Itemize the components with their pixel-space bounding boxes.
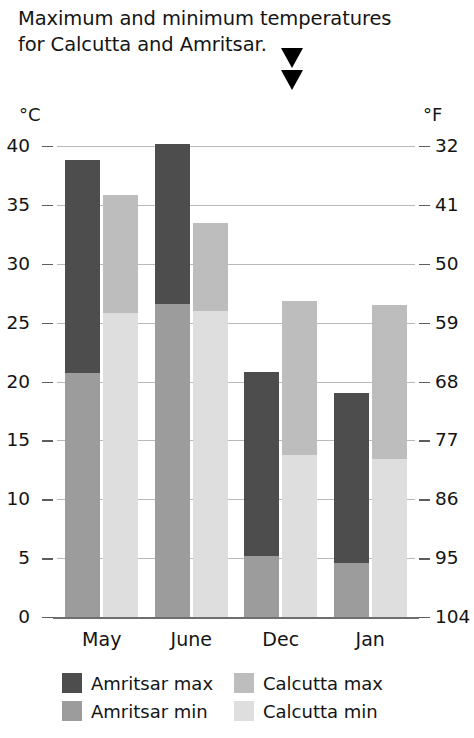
y-axis-tick-left (42, 499, 53, 500)
y-axis-tick-right (419, 558, 430, 559)
bar-calcutta-min-may (103, 313, 138, 617)
bar-calcutta-min-jan (372, 459, 407, 617)
y-axis-label-celsius: 10 (0, 490, 30, 509)
down-triangle-icon-upper (281, 48, 303, 68)
y-axis-label-fahrenheit: 32 (435, 137, 474, 156)
y-axis-label-celsius: 40 (0, 137, 30, 156)
y-axis-label-fahrenheit: 50 (435, 255, 474, 274)
legend-swatch-icon (234, 701, 254, 721)
legend-label: Calcutta max (263, 673, 383, 694)
down-triangle-icon-lower (281, 70, 303, 90)
y-axis-tick-left (42, 440, 53, 441)
y-axis-label-celsius: 25 (0, 314, 30, 333)
right-axis-unit: °F (423, 104, 442, 125)
chart-title: Maximum and minimum temperatures for Cal… (18, 6, 448, 58)
x-axis-label-jan: Jan (326, 628, 416, 650)
legend-label: Amritsar min (91, 701, 208, 722)
y-axis-tick-right (419, 205, 430, 206)
y-axis-tick-left (42, 146, 53, 147)
y-axis-label-fahrenheit: 59 (435, 314, 474, 333)
title-line-2: for Calcutta and Amritsar. (18, 32, 448, 58)
y-axis-label-fahrenheit: 86 (435, 490, 474, 509)
bar-calcutta-min-june (193, 311, 228, 617)
legend-swatch-icon (62, 673, 82, 693)
y-axis-label-celsius: 35 (0, 196, 30, 215)
y-axis-tick-left (42, 382, 53, 383)
x-axis-baseline (53, 617, 419, 619)
y-axis-label-celsius: 5 (0, 549, 30, 568)
legend-swatch-icon (234, 673, 254, 693)
bar-amritsar-min-june (155, 304, 190, 617)
y-axis-label-fahrenheit: 104 (435, 608, 474, 627)
left-axis-unit: °C (19, 104, 41, 125)
y-axis-tick-left (42, 617, 53, 618)
y-axis-tick-left (42, 558, 53, 559)
y-axis-tick-left (42, 205, 53, 206)
legend-swatch-icon (62, 701, 82, 721)
chart-legend: Amritsar maxCalcutta maxAmritsar minCalc… (62, 669, 412, 725)
legend-label: Amritsar max (91, 673, 213, 694)
y-axis-label-celsius: 15 (0, 431, 30, 450)
x-axis-label-may: May (57, 628, 147, 650)
bar-calcutta-min-dec (282, 455, 317, 617)
y-axis-tick-right (419, 323, 430, 324)
legend-item[interactable]: Calcutta min (234, 701, 406, 722)
bar-amritsar-min-dec (244, 556, 279, 617)
y-axis-tick-left (42, 264, 53, 265)
legend-item[interactable]: Amritsar max (62, 673, 234, 694)
y-axis-tick-right (419, 440, 430, 441)
y-axis-label-celsius: 30 (0, 255, 30, 274)
y-axis-tick-right (419, 617, 430, 618)
y-axis-tick-left (42, 323, 53, 324)
y-axis-label-fahrenheit: 77 (435, 431, 474, 450)
x-axis-label-dec: Dec (236, 628, 326, 650)
chart-plot-area: 01045951086157720682559305035414032 (57, 146, 415, 617)
y-axis-tick-right (419, 499, 430, 500)
legend-item[interactable]: Calcutta max (234, 673, 406, 694)
gridline (57, 146, 415, 147)
x-axis-label-june: June (147, 628, 237, 650)
bar-amritsar-min-may (65, 373, 100, 617)
bar-amritsar-min-jan (334, 563, 369, 617)
y-axis-label-celsius: 20 (0, 373, 30, 392)
y-axis-tick-right (419, 382, 430, 383)
legend-label: Calcutta min (263, 701, 378, 722)
title-line-1: Maximum and minimum temperatures (18, 6, 448, 32)
y-axis-label-fahrenheit: 68 (435, 373, 474, 392)
y-axis-label-celsius: 0 (0, 608, 30, 627)
down-triangle-marker-icon (281, 48, 315, 94)
y-axis-label-fahrenheit: 41 (435, 196, 474, 215)
y-axis-tick-right (419, 264, 430, 265)
legend-item[interactable]: Amritsar min (62, 701, 234, 722)
y-axis-tick-right (419, 146, 430, 147)
y-axis-label-fahrenheit: 95 (435, 549, 474, 568)
